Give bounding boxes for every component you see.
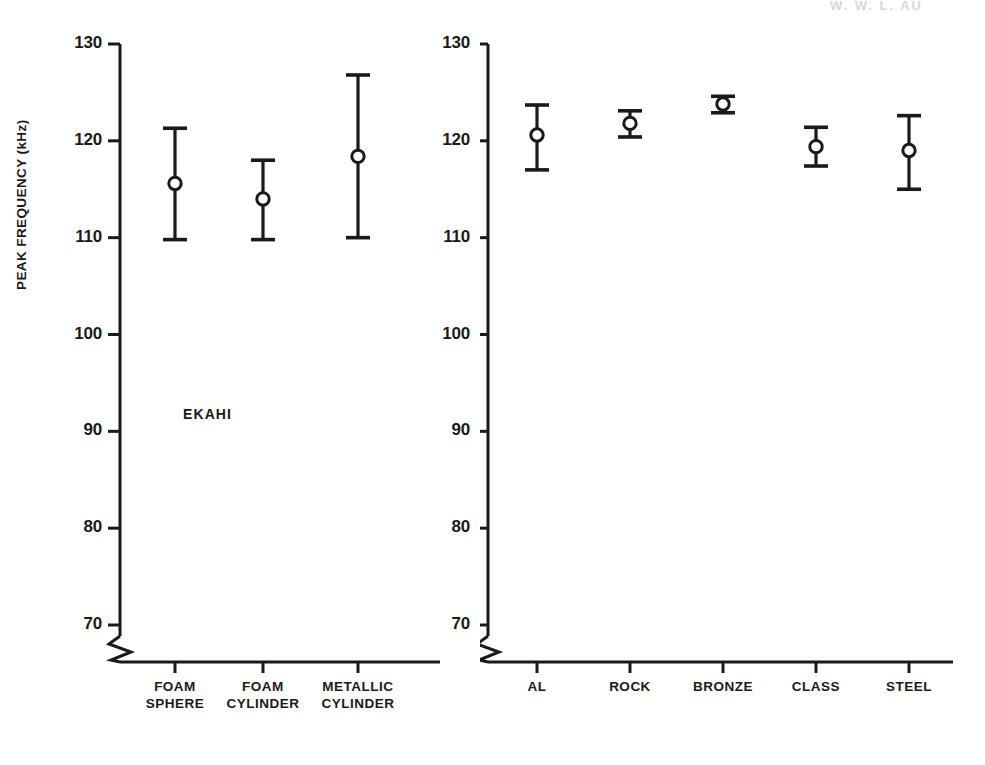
- plot-area-ekahi: [0, 0, 480, 765]
- figure-canvas: W. W. L. AU PEAK FREQUENCY (kHz) EKAHI 7…: [0, 0, 985, 765]
- data-point-errorbar: [897, 116, 921, 190]
- x-category-label-line: FOAM: [226, 678, 299, 695]
- x-category-label: FOAMCYLINDER: [226, 678, 299, 712]
- data-point-errorbar: [163, 128, 187, 239]
- y-tick-label: 110: [428, 227, 470, 247]
- data-point-errorbar: [251, 160, 275, 239]
- x-category-label: CLASS: [792, 678, 840, 695]
- y-tick-label: 70: [60, 614, 102, 634]
- y-tick-label: 110: [60, 227, 102, 247]
- data-point-errorbar: [711, 96, 735, 112]
- x-category-label-line: STEEL: [886, 678, 932, 695]
- x-category-label: BRONZE: [693, 678, 753, 695]
- x-category-label-line: METALLIC: [321, 678, 394, 695]
- y-tick-label: 80: [428, 517, 470, 537]
- plot-area-sven: [480, 0, 985, 765]
- x-category-label: FOAMSPHERE: [146, 678, 205, 712]
- data-point-errorbar: [804, 127, 828, 166]
- x-category-label-line: CYLINDER: [226, 695, 299, 712]
- y-tick-label: 90: [60, 420, 102, 440]
- x-category-label-line: FOAM: [146, 678, 205, 695]
- y-tick-label: 100: [428, 324, 470, 344]
- x-category-label-line: CYLINDER: [321, 695, 394, 712]
- data-point-marker: [624, 117, 636, 129]
- data-point-marker: [810, 140, 822, 152]
- x-category-label-line: SPHERE: [146, 695, 205, 712]
- data-point-marker: [169, 177, 181, 189]
- x-category-label: STEEL: [886, 678, 932, 695]
- data-point-marker: [257, 193, 269, 205]
- data-point-errorbar: [618, 111, 642, 137]
- y-tick-label: 130: [428, 33, 470, 53]
- x-category-label: METALLICCYLINDER: [321, 678, 394, 712]
- y-tick-label: 90: [428, 420, 470, 440]
- data-point-errorbar: [346, 75, 370, 238]
- data-point-marker: [352, 150, 364, 162]
- panel-ekahi: EKAHI 708090100110120130FOAMSPHEREFOAMCY…: [0, 0, 480, 765]
- x-category-label-line: AL: [528, 678, 547, 695]
- data-point-marker: [531, 129, 543, 141]
- y-tick-label: 120: [428, 130, 470, 150]
- data-point-errorbar: [525, 105, 549, 170]
- y-tick-label: 70: [428, 614, 470, 634]
- x-category-label: ROCK: [609, 678, 651, 695]
- data-point-marker: [903, 144, 915, 156]
- x-category-label-line: CLASS: [792, 678, 840, 695]
- x-category-label: AL: [528, 678, 547, 695]
- x-category-label-line: ROCK: [609, 678, 651, 695]
- panel-label-ekahi: EKAHI: [183, 406, 232, 422]
- y-tick-label: 120: [60, 130, 102, 150]
- panel-sven: SVEN 708090100110120130ALROCKBRONZECLASS…: [480, 0, 985, 765]
- x-category-label-line: BRONZE: [693, 678, 753, 695]
- y-tick-label: 130: [60, 33, 102, 53]
- y-tick-label: 80: [60, 517, 102, 537]
- data-point-marker: [717, 98, 729, 110]
- y-tick-label: 100: [60, 324, 102, 344]
